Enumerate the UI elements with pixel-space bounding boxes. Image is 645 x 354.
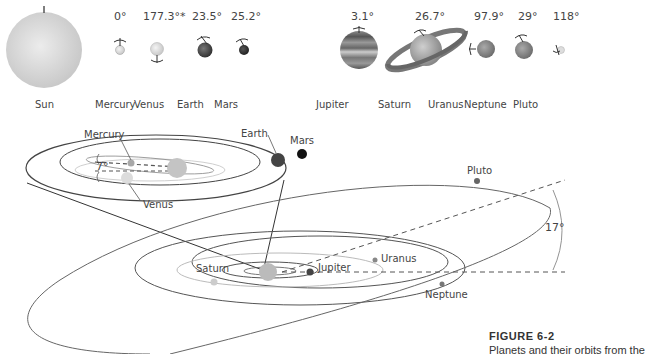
sun-icon (6, 6, 82, 88)
inner-label-earth: Earth (241, 129, 268, 139)
outer-label-pluto: Pluto (467, 166, 492, 176)
outer-orbits (28, 180, 565, 354)
outer-pluto-icon (474, 178, 480, 184)
tilt-jupiter: 3.1° (351, 11, 374, 22)
label-earth: Earth (177, 100, 204, 110)
inner-label-mercury: Mercury (84, 130, 125, 140)
label-mercury: Mercury (95, 100, 136, 110)
figure-number: FIGURE 6-2 (489, 330, 555, 342)
outer-saturn-icon (211, 279, 218, 286)
outer-label-jupiter: Jupiter (318, 263, 351, 273)
outer-label-saturn: Saturn (196, 264, 229, 274)
outer-uranus-icon (373, 258, 378, 263)
uranus-icon (469, 40, 495, 58)
inner-earth-icon (271, 153, 285, 167)
pluto-icon (553, 45, 565, 55)
label-pluto: Pluto (513, 100, 538, 110)
label-neptune: Neptune (464, 100, 507, 110)
inclination-17-label: 17° (545, 222, 565, 233)
neptune-icon (515, 35, 533, 59)
tilt-mercury: 0° (114, 11, 127, 22)
inner-label-mars: Mars (290, 136, 314, 146)
inner-mars-icon (297, 149, 307, 159)
jupiter-icon (340, 26, 378, 69)
inner-sun-icon (167, 158, 187, 178)
label-jupiter: Jupiter (316, 100, 349, 110)
inner-venus-icon (121, 172, 133, 184)
inner-label-venus: Venus (143, 200, 173, 210)
inclination-7-label: 7° (96, 161, 109, 172)
venus-icon (151, 43, 164, 64)
label-mars: Mars (214, 100, 238, 110)
earth-icon (197, 36, 213, 58)
tilt-pluto: 118° (553, 11, 580, 22)
outer-sun-icon (259, 263, 277, 281)
outer-jupiter-icon (307, 269, 314, 276)
mercury-icon (114, 38, 126, 55)
inner-orbits (26, 135, 286, 201)
outer-neptune-icon (440, 282, 445, 287)
tilt-saturn: 26.7° (415, 11, 445, 22)
label-venus: Venus (134, 100, 164, 110)
figure-caption: Planets and their orbits from the (489, 344, 645, 354)
label-saturn: Saturn (378, 100, 411, 110)
outer-label-uranus: Uranus (381, 254, 416, 264)
label-sun: Sun (35, 100, 54, 110)
outer-label-neptune: Neptune (425, 290, 468, 300)
tilt-venus: 177.3°* (143, 11, 186, 22)
mars-icon (236, 39, 249, 55)
tilt-mars: 25.2° (231, 11, 261, 22)
inner-mercury-icon (128, 160, 135, 167)
label-uranus: Uranus (428, 100, 463, 110)
tilt-neptune: 29° (518, 11, 538, 22)
tilt-earth: 23.5° (192, 11, 222, 22)
tilt-uranus: 97.9° (474, 11, 504, 22)
saturn-icon (383, 23, 469, 77)
